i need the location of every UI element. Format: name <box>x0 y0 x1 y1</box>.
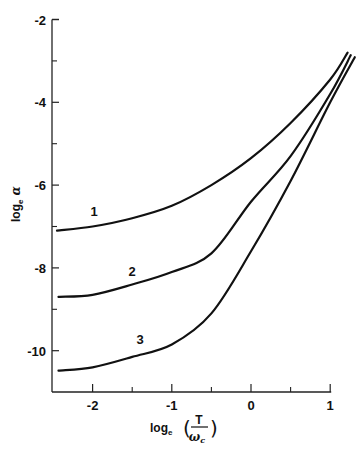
curves <box>57 53 355 371</box>
x-axis-title-log: log <box>150 421 168 435</box>
chart: -2-4-6-8-10-2-101 123 logeα loge ( T ωc … <box>0 0 363 451</box>
y-tick-label: -6 <box>34 178 46 193</box>
curve-label-1: 1 <box>91 204 98 219</box>
y-tick-label: -2 <box>34 13 46 28</box>
x-tick-label: 1 <box>327 398 334 413</box>
y-axis-title-log: log <box>9 204 23 222</box>
svg-text:loge: loge <box>150 421 173 437</box>
x-axis-title-den: ωc <box>189 430 205 445</box>
curve-label-2: 2 <box>129 264 136 279</box>
curve-1 <box>57 53 348 231</box>
x-axis-title-num: T <box>195 413 203 427</box>
y-tick-label: -10 <box>27 344 46 359</box>
y-axis-title-sub: e <box>16 199 25 204</box>
x-axis-title-rparen: ) <box>210 416 218 440</box>
x-axis-title: loge ( T ωc ) <box>150 413 218 445</box>
y-axis-title: logeα <box>9 186 25 222</box>
y-tick-label: -8 <box>34 261 46 276</box>
ticks: -2-4-6-8-10-2-101 <box>27 13 334 414</box>
x-axis-title-sub: e <box>168 428 173 437</box>
curve-2 <box>59 55 351 297</box>
x-tick-label: 0 <box>247 398 254 413</box>
curve-3 <box>59 57 355 370</box>
x-tick-label: -1 <box>166 398 178 413</box>
y-tick-label: -4 <box>34 95 46 110</box>
curve-label-3: 3 <box>137 332 144 347</box>
y-axis-title-symbol: α <box>9 186 23 195</box>
x-tick-label: -2 <box>87 398 99 413</box>
